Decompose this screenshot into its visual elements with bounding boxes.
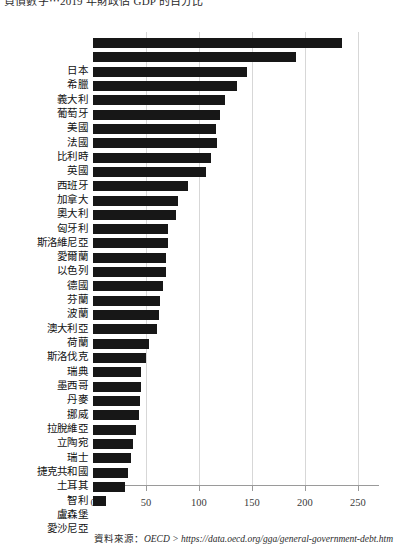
- category-label: 瑞典: [0, 366, 88, 377]
- bar: [93, 224, 168, 234]
- bar-row: [93, 251, 379, 265]
- bar: [93, 138, 217, 148]
- bar-row: [93, 36, 379, 50]
- bar-row: [93, 279, 379, 293]
- bar-row: [93, 265, 379, 279]
- bar: [93, 296, 160, 306]
- category-label: 拉脫維亞: [0, 423, 88, 434]
- bar-row: [93, 380, 379, 394]
- bar: [93, 453, 131, 463]
- bar-row: [93, 408, 379, 422]
- category-label: 英國: [0, 165, 88, 176]
- bar: [93, 353, 146, 363]
- category-label: 立陶宛: [0, 437, 88, 448]
- bar: [93, 382, 141, 392]
- category-label: 波蘭: [0, 308, 88, 319]
- category-label: 比利時: [0, 151, 88, 162]
- bar: [93, 281, 163, 291]
- bar: [93, 124, 216, 134]
- category-label: 義大利: [0, 94, 88, 105]
- bar-row: [93, 437, 379, 451]
- bar-row: [93, 322, 379, 336]
- category-label: 德國: [0, 280, 88, 291]
- bar: [93, 181, 188, 191]
- category-label: 日本: [0, 65, 88, 76]
- category-label: 西班牙: [0, 180, 88, 191]
- bar-row: [93, 108, 379, 122]
- bar-row: [93, 494, 379, 508]
- bar: [93, 238, 168, 248]
- bar: [93, 167, 206, 177]
- bar: [93, 210, 176, 220]
- category-label: 匈牙利: [0, 223, 88, 234]
- plot-area: 050100150200250: [93, 32, 379, 494]
- source-url: OECD > https://data.oecd.org/gga/general…: [144, 534, 393, 544]
- category-label: 瑞士: [0, 452, 88, 463]
- source-note: 資料來源：OECD > https://data.oecd.org/gga/ge…: [0, 533, 393, 545]
- bar-row: [93, 79, 379, 93]
- bar-row: [93, 194, 379, 208]
- bar: [93, 324, 157, 334]
- bar-row: [93, 136, 379, 150]
- category-label: 美國: [0, 122, 88, 133]
- category-label: 法國: [0, 137, 88, 148]
- category-axis-labels: 日本希臘義大利葡萄牙美國法國比利時英國西班牙加拿大奧大利匈牙利斯洛維尼亞愛爾蘭以…: [0, 60, 88, 520]
- bar-row: [93, 93, 379, 107]
- category-label: 挪威: [0, 409, 88, 420]
- category-label: 以色列: [0, 265, 88, 276]
- category-label: 盧森堡: [0, 509, 88, 520]
- chart-page: 負債數字⋯2019 年財政佔 GDP 的百分比 日本希臘義大利葡萄牙美國法國比利…: [0, 0, 401, 553]
- source-label: 資料來源：: [94, 534, 144, 544]
- bar-row: [93, 122, 379, 136]
- bar-row: [93, 179, 379, 193]
- bar: [93, 95, 225, 105]
- category-label: 希臘: [0, 79, 88, 90]
- category-label: 荷蘭: [0, 337, 88, 348]
- bar-row: [93, 165, 379, 179]
- bar: [93, 410, 139, 420]
- bar-row: [93, 480, 379, 494]
- bar-row: [93, 337, 379, 351]
- bar: [93, 38, 342, 48]
- bar-chart: 日本希臘義大利葡萄牙美國法國比利時英國西班牙加拿大奧大利匈牙利斯洛維尼亞愛爾蘭以…: [0, 28, 401, 498]
- bar: [93, 52, 296, 62]
- bar-row: [93, 151, 379, 165]
- bar: [93, 482, 125, 492]
- bar-row: [93, 294, 379, 308]
- bar: [93, 439, 133, 449]
- category-label: 墨西哥: [0, 380, 88, 391]
- bar-row: [93, 50, 379, 64]
- bar-row: [93, 451, 379, 465]
- bar: [93, 153, 211, 163]
- bar: [93, 81, 237, 91]
- category-label: 加拿大: [0, 194, 88, 205]
- category-label: 斯洛維尼亞: [0, 237, 88, 248]
- bar-row: [93, 466, 379, 480]
- bar: [93, 496, 106, 506]
- bar-row: [93, 222, 379, 236]
- bar: [93, 67, 247, 77]
- bar: [93, 468, 128, 478]
- bar-row: [93, 65, 379, 79]
- chart-caption: 負債數字⋯2019 年財政佔 GDP 的百分比: [4, 0, 396, 8]
- category-label: 奧大利: [0, 208, 88, 219]
- category-label: 澳大利亞: [0, 323, 88, 334]
- bar: [93, 110, 220, 120]
- bar: [93, 339, 149, 349]
- bar: [93, 367, 141, 377]
- category-label: 芬蘭: [0, 294, 88, 305]
- category-label: 葡萄牙: [0, 108, 88, 119]
- bar-row: [93, 394, 379, 408]
- category-label: 愛爾蘭: [0, 251, 88, 262]
- category-label: 土耳其: [0, 480, 88, 491]
- bar-row: [93, 308, 379, 322]
- category-label: 斯洛伐克: [0, 351, 88, 362]
- category-label: 智利: [0, 495, 88, 506]
- bar-row: [93, 236, 379, 250]
- bar-row: [93, 423, 379, 437]
- bar: [93, 196, 178, 206]
- category-label: 丹麥: [0, 394, 88, 405]
- bar-row: [93, 365, 379, 379]
- bar: [93, 396, 140, 406]
- bar: [93, 253, 166, 263]
